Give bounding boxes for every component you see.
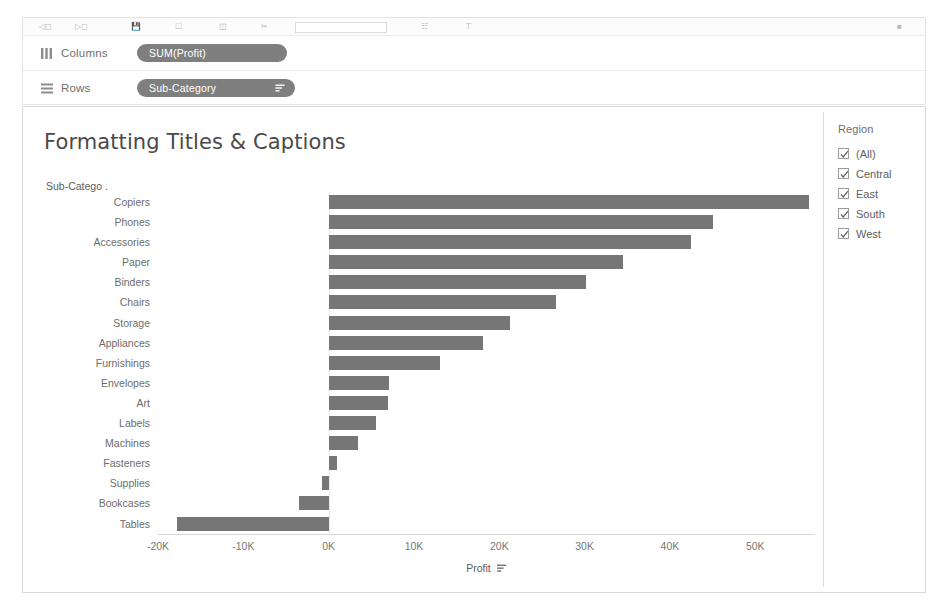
bar-labels[interactable] bbox=[329, 416, 376, 430]
checkbox-checked-icon[interactable] bbox=[838, 148, 849, 159]
bar-row-label[interactable]: Copiers bbox=[28, 192, 150, 212]
bar-row-label[interactable]: Art bbox=[28, 393, 150, 413]
bar-row-label[interactable]: Labels bbox=[28, 413, 150, 433]
pill-sum-profit[interactable]: SUM(Profit) bbox=[137, 44, 287, 62]
bar-storage[interactable] bbox=[329, 316, 511, 330]
filter-item[interactable]: East bbox=[838, 184, 920, 203]
presentation-icon[interactable]: ⊤ bbox=[465, 23, 472, 31]
filter-item[interactable]: (All) bbox=[838, 144, 920, 163]
bar-envelopes[interactable] bbox=[329, 376, 390, 390]
x-axis-title[interactable]: Profit bbox=[158, 562, 815, 575]
new-sheet-icon[interactable]: ☐ bbox=[175, 23, 182, 31]
bar-row[interactable]: Bookcases bbox=[28, 493, 823, 513]
page-title[interactable]: Formatting Titles & Captions bbox=[44, 130, 346, 154]
bar-row[interactable]: Tables bbox=[28, 514, 823, 534]
bar-chairs[interactable] bbox=[329, 295, 556, 309]
bar-row[interactable]: Binders bbox=[28, 272, 823, 292]
columns-icon bbox=[37, 48, 57, 59]
bar-row[interactable]: Machines bbox=[28, 433, 823, 453]
bar-row[interactable]: Paper bbox=[28, 252, 823, 272]
bar-row-label[interactable]: Appliances bbox=[28, 333, 150, 353]
bar-phones[interactable] bbox=[329, 215, 714, 229]
undo-icon[interactable]: ◁◻ bbox=[39, 23, 52, 31]
bar-row-label[interactable]: Bookcases bbox=[28, 493, 150, 513]
bar-row[interactable]: Storage bbox=[28, 313, 823, 333]
bar-row-label[interactable]: Furnishings bbox=[28, 353, 150, 373]
x-tick-label: 0K bbox=[322, 540, 335, 552]
bar-row[interactable]: Supplies bbox=[28, 473, 823, 493]
columns-shelf-label: Columns bbox=[61, 47, 137, 59]
bar-row-label[interactable]: Chairs bbox=[28, 292, 150, 312]
rows-shelf[interactable]: Rows Sub-Category bbox=[23, 71, 925, 105]
bar-track bbox=[158, 353, 815, 373]
row-field-header[interactable]: Sub-Catego . bbox=[46, 180, 108, 192]
checkbox-checked-icon[interactable] bbox=[838, 168, 849, 179]
redo-icon[interactable]: ▷◻ bbox=[75, 23, 88, 31]
bar-row[interactable]: Furnishings bbox=[28, 353, 823, 373]
checkbox-checked-icon[interactable] bbox=[838, 188, 849, 199]
save-icon[interactable]: 💾 bbox=[131, 23, 141, 31]
checkbox-checked-icon[interactable] bbox=[838, 228, 849, 239]
bar-row[interactable]: Copiers bbox=[28, 192, 823, 212]
bar-row[interactable]: Appliances bbox=[28, 333, 823, 353]
bar-row-label[interactable]: Paper bbox=[28, 252, 150, 272]
x-axis-line bbox=[158, 534, 815, 535]
bar-row[interactable]: Fasteners bbox=[28, 453, 823, 473]
sort-descending-icon bbox=[275, 83, 285, 93]
bar-row[interactable]: Labels bbox=[28, 413, 823, 433]
show-me-icon[interactable]: ■ bbox=[897, 23, 902, 31]
rows-icon bbox=[37, 83, 57, 94]
bar-binders[interactable] bbox=[329, 275, 587, 289]
bar-supplies[interactable] bbox=[322, 476, 329, 490]
bar-track bbox=[158, 192, 815, 212]
pill-sub-category[interactable]: Sub-Category bbox=[137, 79, 295, 97]
x-tick-label: 20K bbox=[490, 540, 509, 552]
bar-row-label[interactable]: Machines bbox=[28, 433, 150, 453]
bar-paper[interactable] bbox=[329, 255, 623, 269]
columns-shelf[interactable]: Columns SUM(Profit) bbox=[23, 36, 925, 71]
bar-row-label[interactable]: Phones bbox=[28, 212, 150, 232]
bar-tables[interactable] bbox=[177, 517, 329, 531]
bar-row-label[interactable]: Fasteners bbox=[28, 453, 150, 473]
bar-track bbox=[158, 413, 815, 433]
sort-descending-icon[interactable] bbox=[497, 563, 507, 575]
x-axis-title-label: Profit bbox=[466, 562, 491, 574]
bar-fasteners[interactable] bbox=[329, 456, 338, 470]
bar-row-label[interactable]: Accessories bbox=[28, 232, 150, 252]
filter-item-label: East bbox=[856, 188, 878, 200]
fit-dropdown[interactable] bbox=[295, 22, 387, 33]
bar-row-label[interactable]: Supplies bbox=[28, 473, 150, 493]
bar-furnishings[interactable] bbox=[329, 356, 441, 370]
chart-pane: Formatting Titles & Captions Sub-Catego … bbox=[28, 112, 823, 587]
bar-row-label[interactable]: Binders bbox=[28, 272, 150, 292]
bar-appliances[interactable] bbox=[329, 336, 483, 350]
duplicate-icon[interactable]: ◫ bbox=[219, 23, 227, 31]
checkbox-checked-icon[interactable] bbox=[838, 208, 849, 219]
bar-track bbox=[158, 373, 815, 393]
bar-copiers[interactable] bbox=[329, 195, 809, 209]
bar-bookcases[interactable] bbox=[299, 496, 329, 510]
x-tick-label: 30K bbox=[575, 540, 594, 552]
bar-row[interactable]: Art bbox=[28, 393, 823, 413]
filter-item[interactable]: West bbox=[838, 224, 920, 243]
bar-row[interactable]: Phones bbox=[28, 212, 823, 232]
filter-item-label: Central bbox=[856, 168, 891, 180]
clear-icon[interactable]: ✂ bbox=[261, 23, 268, 31]
bar-row[interactable]: Accessories bbox=[28, 232, 823, 252]
bar-track bbox=[158, 232, 815, 252]
tableau-worksheet-screenshot: ◁◻ ▷◻ 💾 ☐ ◫ ✂ ☷ ⊤ ■ Columns SUM(Profit) bbox=[0, 0, 948, 614]
bar-accessories[interactable] bbox=[329, 235, 692, 249]
bar-row[interactable]: Envelopes bbox=[28, 373, 823, 393]
filter-item[interactable]: South bbox=[838, 204, 920, 223]
bar-track bbox=[158, 292, 815, 312]
highlight-icon[interactable]: ☷ bbox=[421, 23, 428, 31]
bar-row-label[interactable]: Storage bbox=[28, 313, 150, 333]
x-tick-label: 10K bbox=[405, 540, 424, 552]
viz-card: Formatting Titles & Captions Sub-Catego … bbox=[22, 106, 926, 593]
bar-row-label[interactable]: Envelopes bbox=[28, 373, 150, 393]
bar-machines[interactable] bbox=[329, 436, 358, 450]
bar-row[interactable]: Chairs bbox=[28, 292, 823, 312]
bar-row-label[interactable]: Tables bbox=[28, 514, 150, 534]
bar-art[interactable] bbox=[329, 396, 388, 410]
filter-item[interactable]: Central bbox=[838, 164, 920, 183]
